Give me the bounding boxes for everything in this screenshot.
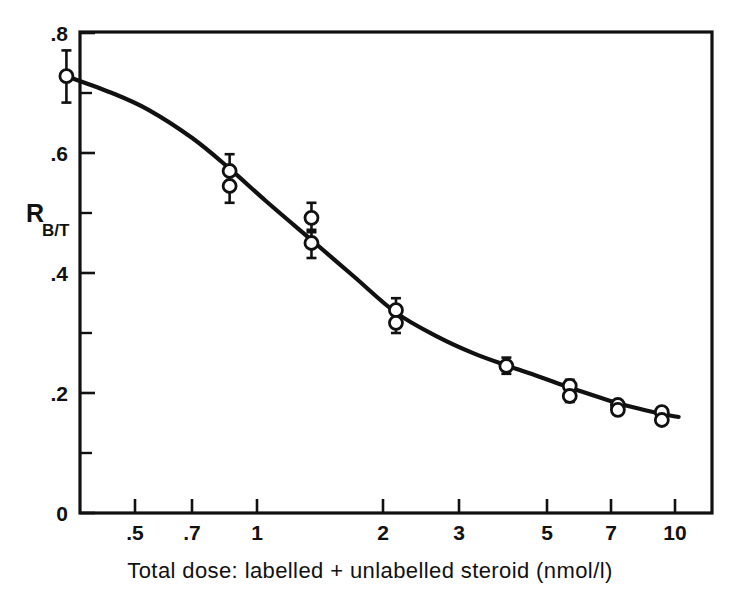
x-axis-ticks [135, 499, 675, 513]
data-point-marker [655, 414, 668, 427]
data-point-marker [500, 360, 513, 373]
data-point-marker [611, 403, 624, 416]
figure-container: 0 .2 .4 .6 .8 R B/T .5 .7 1 2 3 5 7 10 [0, 0, 733, 599]
y-tick-label-0.8: .8 [50, 22, 68, 45]
x-tick-label-0.5: .5 [126, 521, 144, 544]
data-point-marker [305, 211, 318, 224]
y-tick-label-0.6: .6 [50, 142, 68, 165]
data-point-marker [60, 70, 73, 83]
plot-frame [80, 32, 712, 513]
y-axis-label-subscript: B/T [42, 221, 70, 240]
x-tick-label-3: 3 [453, 521, 465, 544]
y-tick-label-0.4: .4 [50, 262, 68, 285]
data-point-marker [223, 165, 236, 178]
data-point-marker [223, 180, 236, 193]
x-axis-caption: Total dose: labelled + unlabelled steroi… [127, 558, 612, 583]
y-tick-label-0: 0 [56, 502, 68, 525]
x-tick-label-2: 2 [377, 521, 389, 544]
x-tick-label-0.7: .7 [183, 521, 201, 544]
y-tick-label-0.2: .2 [50, 382, 68, 405]
error-bars-group [61, 50, 666, 423]
data-point-marker [563, 390, 576, 403]
data-point-marker [389, 316, 402, 329]
y-axis-major-ticks [80, 33, 95, 513]
fitted-curve [66, 76, 678, 417]
x-tick-label-10: 10 [663, 521, 686, 544]
data-markers-group [60, 70, 668, 427]
data-point-marker [389, 304, 402, 317]
x-tick-label-7: 7 [605, 521, 617, 544]
y-axis-label: R B/T [26, 199, 70, 240]
x-tick-label-1: 1 [251, 521, 263, 544]
dose-response-chart: 0 .2 .4 .6 .8 R B/T .5 .7 1 2 3 5 7 10 [0, 0, 733, 599]
x-tick-label-5: 5 [541, 521, 553, 544]
data-point-marker [305, 237, 318, 250]
